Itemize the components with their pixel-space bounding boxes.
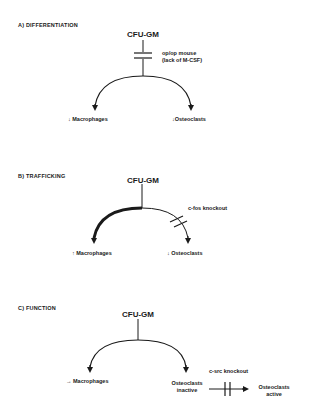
panel-a-root-node: CFU-GM	[127, 30, 159, 39]
label-text: Macrophages	[76, 250, 111, 256]
block-bar-icon	[170, 216, 183, 222]
panel-a-left-label: ↓ Macrophages	[68, 116, 108, 122]
panel-b-right-label: ↓ Osteoclasts	[167, 250, 202, 256]
panel-c-inactive-label: Osteoclasts inactive	[168, 380, 206, 394]
down-arrow-icon: ↓	[167, 250, 170, 256]
diagram-lines	[0, 0, 310, 420]
label-line1: Osteoclasts	[254, 384, 294, 391]
block-note-line2: (lack of M-CSF)	[162, 57, 202, 64]
panel-b-root-node: CFU-GM	[127, 176, 159, 185]
panel-b-left-label: ↑ Macrophages	[72, 250, 112, 256]
right-arrow-icon: →	[66, 378, 72, 384]
panel-b-lines	[94, 184, 188, 241]
up-arrow-icon: ↑	[72, 250, 75, 256]
down-arrow-icon: ↓	[68, 116, 71, 122]
label-text: Macrophages	[72, 116, 107, 122]
panel-c-active-label: Osteoclasts active	[254, 384, 294, 398]
label-line1: Osteoclasts	[168, 380, 206, 387]
panel-a-right-label: ↓Osteoclasts	[172, 116, 206, 122]
label-line2: inactive	[168, 387, 206, 394]
label-text: Osteoclasts	[171, 250, 202, 256]
panel-c-block-note: c-src knockout	[209, 368, 248, 375]
panel-b-block-note: c-fos knockout	[188, 205, 227, 212]
block-note-line1: op/op mouse	[162, 50, 202, 57]
label-text: Macrophages	[73, 378, 108, 384]
panel-a-block-note: op/op mouse (lack of M-CSF)	[162, 50, 202, 64]
panel-c-left-label: → Macrophages	[66, 378, 109, 384]
panel-c-title: C) FUNCTION	[18, 305, 56, 311]
label-line2: active	[254, 391, 294, 398]
label-text: Osteoclasts	[175, 116, 206, 122]
panel-a-title: A) DIFFERENTIATION	[18, 22, 78, 28]
panel-b-title: B) TRAFFICKING	[18, 173, 65, 179]
block-note-line1: c-src knockout	[209, 368, 248, 375]
panel-c-root-node: CFU-GM	[122, 310, 154, 319]
block-note-line1: c-fos knockout	[188, 205, 227, 212]
